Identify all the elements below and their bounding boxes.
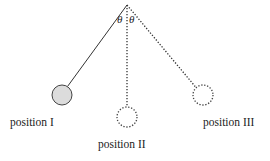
bob-position-2 xyxy=(117,107,137,127)
label-position-3: position III xyxy=(203,116,255,129)
bob-position-1 xyxy=(52,85,72,105)
label-position-1: position I xyxy=(10,116,54,129)
angle-label-right: θ xyxy=(129,13,135,25)
pendulum-diagram: θ θ position I position II position III xyxy=(0,0,270,161)
angle-label-left: θ xyxy=(117,13,123,25)
bob-position-3 xyxy=(193,85,213,105)
label-position-2: position II xyxy=(98,138,146,151)
string-position-3 xyxy=(127,5,196,88)
